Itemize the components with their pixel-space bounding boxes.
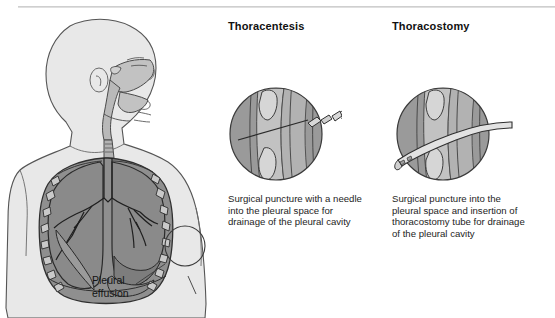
thoracostomy-caption: Surgical puncture into the pleural space… [392,193,555,239]
inset-left-contents [222,76,342,192]
thoracentesis-heading: Thoracentesis [228,20,305,32]
pleural-effusion-label: Pleural effusion [92,274,129,300]
figure-page: Pleural effusion Thoracentesis [0,0,555,318]
thoracentesis-inset-illustration [222,76,342,192]
anatomy-illustration [0,8,230,318]
thoracostomy-inset-illustration [388,76,513,192]
thoracentesis-caption: Surgical puncture with a needle into the… [228,193,393,228]
thoracostomy-heading: Thoracostomy [392,20,470,32]
